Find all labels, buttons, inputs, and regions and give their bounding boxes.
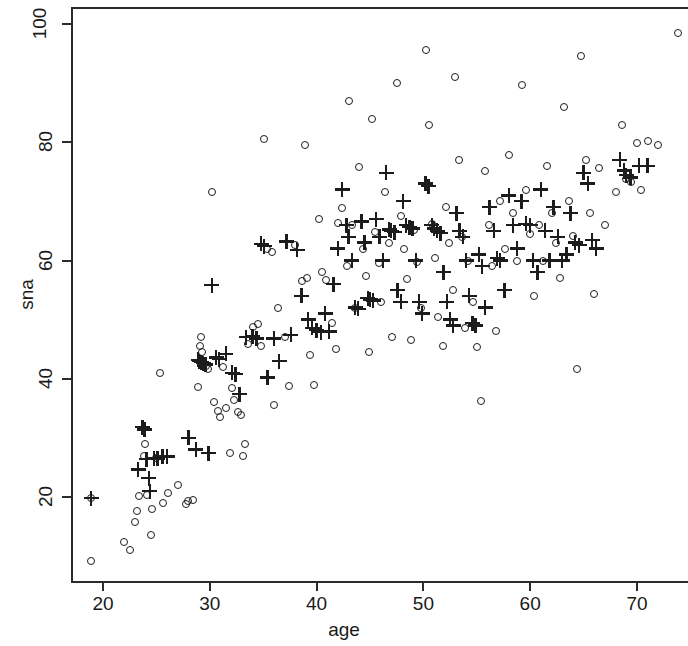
x-tick-mark bbox=[636, 583, 638, 591]
data-point-circle bbox=[159, 499, 167, 507]
data-point-circle bbox=[477, 397, 485, 405]
data-point-circle bbox=[573, 365, 581, 373]
x-tick-label: 20 bbox=[73, 594, 133, 613]
data-point-plus bbox=[433, 226, 448, 241]
data-point-circle bbox=[285, 382, 293, 390]
x-tick-mark bbox=[529, 583, 531, 591]
data-point-circle bbox=[644, 137, 652, 145]
data-point-circle bbox=[590, 290, 598, 298]
data-point-circle bbox=[133, 507, 141, 515]
data-point-plus bbox=[408, 253, 423, 268]
y-tick-label-text: 20 bbox=[36, 486, 55, 507]
data-point-circle bbox=[522, 186, 530, 194]
data-point-plus bbox=[550, 229, 565, 244]
x-tick-mark bbox=[209, 583, 211, 591]
data-point-plus bbox=[228, 367, 243, 382]
x-axis-label: age bbox=[0, 620, 688, 639]
data-point-plus bbox=[257, 239, 272, 254]
data-point-circle bbox=[338, 204, 346, 212]
data-point-circle bbox=[560, 103, 568, 111]
data-point-circle bbox=[612, 188, 620, 196]
data-point-plus bbox=[396, 194, 411, 209]
data-point-plus bbox=[482, 200, 497, 215]
data-point-circle bbox=[365, 348, 373, 356]
data-point-circle bbox=[381, 188, 389, 196]
y-axis-label-text: sna bbox=[16, 279, 35, 310]
data-point-circle bbox=[126, 546, 134, 554]
data-point-plus bbox=[354, 214, 369, 229]
y-tick-mark bbox=[62, 23, 71, 25]
data-point-circle bbox=[362, 272, 370, 280]
data-point-circle bbox=[473, 343, 481, 351]
data-point-circle bbox=[131, 518, 139, 526]
data-point-plus bbox=[232, 387, 247, 402]
data-point-circle bbox=[241, 440, 249, 448]
data-point-plus bbox=[455, 229, 470, 244]
data-point-circle bbox=[239, 452, 247, 460]
data-point-plus bbox=[589, 241, 604, 256]
scatter-plot-figure: 203040506070 20406080100 age sna bbox=[0, 0, 688, 646]
y-tick-label-text: 40 bbox=[36, 368, 55, 389]
data-point-plus bbox=[468, 318, 483, 333]
data-point-circle bbox=[237, 411, 245, 419]
data-point-plus bbox=[283, 327, 298, 342]
data-point-circle bbox=[565, 197, 573, 205]
y-tick-label-text: 100 bbox=[31, 8, 50, 40]
data-point-plus bbox=[137, 422, 152, 437]
data-point-circle bbox=[586, 209, 594, 217]
data-point-circle bbox=[407, 336, 415, 344]
data-point-circle bbox=[654, 141, 662, 149]
data-point-plus bbox=[357, 235, 372, 250]
data-point-plus bbox=[318, 306, 333, 321]
data-point-circle bbox=[301, 141, 309, 149]
data-point-plus bbox=[326, 277, 341, 292]
data-point-circle bbox=[141, 440, 149, 448]
data-point-circle bbox=[345, 97, 353, 105]
data-point-plus bbox=[142, 484, 157, 499]
data-point-plus bbox=[290, 242, 305, 257]
data-point-plus bbox=[393, 294, 408, 309]
data-point-circle bbox=[492, 327, 500, 335]
data-point-circle bbox=[425, 121, 433, 129]
data-point-circle bbox=[505, 151, 513, 159]
data-point-circle bbox=[254, 320, 262, 328]
data-point-circle bbox=[120, 538, 128, 546]
data-point-plus bbox=[294, 288, 309, 303]
data-point-circle bbox=[197, 333, 205, 341]
data-point-plus bbox=[436, 265, 451, 280]
data-point-plus bbox=[514, 194, 529, 209]
data-point-circle bbox=[194, 383, 202, 391]
data-point-plus bbox=[160, 449, 175, 464]
data-point-circle bbox=[543, 162, 551, 170]
data-point-plus bbox=[322, 324, 337, 339]
x-tick-mark bbox=[422, 583, 424, 591]
data-point-circle bbox=[513, 257, 521, 265]
data-point-plus bbox=[415, 306, 430, 321]
data-point-plus bbox=[510, 241, 525, 256]
y-tick-mark bbox=[62, 378, 71, 380]
y-tick-label: 20 bbox=[0, 487, 56, 506]
data-point-circle bbox=[174, 481, 182, 489]
data-point-circle bbox=[270, 401, 278, 409]
data-point-plus bbox=[493, 253, 508, 268]
data-point-circle bbox=[189, 496, 197, 504]
data-point-circle bbox=[582, 156, 590, 164]
data-point-circle bbox=[274, 304, 282, 312]
y-tick-label-text: 60 bbox=[36, 249, 55, 270]
data-point-circle bbox=[633, 139, 641, 147]
data-point-circle bbox=[306, 351, 314, 359]
data-point-circle bbox=[422, 46, 430, 54]
data-point-circle bbox=[434, 313, 442, 321]
data-point-plus bbox=[405, 221, 420, 236]
data-point-plus bbox=[439, 294, 454, 309]
data-point-circle bbox=[509, 209, 517, 217]
data-point-circle bbox=[216, 413, 224, 421]
data-point-plus bbox=[366, 293, 381, 308]
data-point-plus bbox=[341, 229, 356, 244]
y-tick-label: 40 bbox=[0, 369, 56, 388]
data-point-plus bbox=[486, 223, 501, 238]
data-point-circle bbox=[674, 29, 682, 37]
data-point-circle bbox=[148, 505, 156, 513]
data-point-plus bbox=[446, 318, 461, 333]
y-tick-mark bbox=[62, 260, 71, 262]
